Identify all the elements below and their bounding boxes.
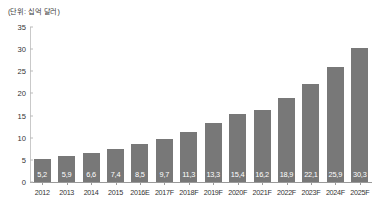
y-tick-label: 5	[0, 155, 26, 164]
bar: 22,1	[302, 84, 319, 182]
x-tick-mark	[189, 182, 190, 185]
y-tick-label: 20	[0, 89, 26, 98]
x-tick-mark	[335, 182, 336, 185]
bar: 16,2	[254, 110, 271, 182]
bar: 15,4	[229, 114, 246, 182]
x-axis-label: 2023F	[301, 188, 320, 197]
y-tick-label: 15	[0, 111, 26, 120]
bar-value-label: 6,6	[83, 170, 100, 179]
bar: 7,4	[107, 149, 124, 182]
x-axis-label: 2020F	[228, 188, 247, 197]
x-axis-label: 2017F	[155, 188, 174, 197]
x-axis-label: 2019F	[204, 188, 223, 197]
bar-value-label: 11,3	[180, 170, 197, 179]
plot-area: 5,25,96,67,48,59,711,313,315,416,218,922…	[30, 27, 372, 182]
x-axis-label: 2022F	[277, 188, 296, 197]
bar-value-label: 18,9	[278, 170, 295, 179]
x-axis-label: 2012	[35, 188, 50, 197]
x-axis-line	[30, 182, 372, 183]
bar-value-label: 8,5	[131, 170, 148, 179]
bar: 25,9	[327, 67, 344, 182]
unit-label: (단위: 십억 달러)	[8, 6, 60, 16]
bar: 9,7	[156, 139, 173, 182]
bar-value-label: 15,4	[229, 170, 246, 179]
bar-value-label: 22,1	[302, 170, 319, 179]
y-tick-label: 25	[0, 67, 26, 76]
x-tick-mark	[238, 182, 239, 185]
x-tick-mark	[360, 182, 361, 185]
bar: 5,2	[34, 159, 51, 182]
x-tick-mark	[42, 182, 43, 185]
x-tick-mark	[91, 182, 92, 185]
bar-value-label: 5,2	[34, 170, 51, 179]
bar-value-label: 5,9	[58, 170, 75, 179]
y-tick-label: 35	[0, 23, 26, 32]
bar-chart-figure: (단위: 십억 달러) 05101520253035 5,25,96,67,48…	[0, 0, 378, 213]
bar-value-label: 25,9	[327, 170, 344, 179]
x-tick-mark	[67, 182, 68, 185]
x-tick-mark	[213, 182, 214, 185]
bar-value-label: 13,3	[205, 170, 222, 179]
x-axis-label: 2018F	[179, 188, 198, 197]
bar: 6,6	[83, 153, 100, 182]
bar-value-label: 7,4	[107, 170, 124, 179]
bar: 8,5	[131, 144, 148, 182]
bar: 5,9	[58, 156, 75, 182]
x-axis-label: 2013	[59, 188, 74, 197]
x-tick-mark	[164, 182, 165, 185]
x-axis-label: 2025F	[350, 188, 369, 197]
y-tick-label: 10	[0, 133, 26, 142]
y-tick-label: 0	[0, 178, 26, 187]
x-tick-mark	[287, 182, 288, 185]
bar-value-label: 30,3	[351, 170, 368, 179]
x-axis-label: 2014	[84, 188, 99, 197]
x-tick-mark	[140, 182, 141, 185]
x-axis-label: 2015	[108, 188, 123, 197]
x-tick-mark	[262, 182, 263, 185]
x-tick-mark	[311, 182, 312, 185]
bar-value-label: 16,2	[254, 170, 271, 179]
bar: 18,9	[278, 98, 295, 182]
y-tick-label: 30	[0, 45, 26, 54]
bar: 11,3	[180, 132, 197, 182]
x-tick-mark	[116, 182, 117, 185]
x-axis-label: 2021F	[253, 188, 272, 197]
bar-value-label: 9,7	[156, 170, 173, 179]
bar: 30,3	[351, 48, 368, 182]
bar: 13,3	[205, 123, 222, 182]
x-axis-label: 2016E	[130, 188, 149, 197]
x-axis-label: 2024F	[326, 188, 345, 197]
